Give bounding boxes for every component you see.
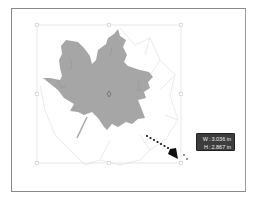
- width-row: W : 3.036 in: [200, 135, 231, 143]
- handle-middle-right: [180, 93, 183, 96]
- handle-top-right: [180, 24, 183, 27]
- width-value: 3.036 in: [211, 135, 231, 143]
- handle-bottom-right: [180, 162, 183, 165]
- height-separator: :: [209, 143, 211, 151]
- dimensions-tooltip: W : 3.036 in H : 2.867 in: [196, 133, 235, 151]
- handle-top-left: [36, 24, 39, 27]
- handle-bottom-middle: [108, 162, 111, 165]
- height-row: H : 2.867 in: [200, 143, 231, 151]
- handle-top-middle: [108, 24, 111, 27]
- height-label: H: [200, 143, 208, 151]
- width-separator: :: [209, 135, 211, 143]
- handle-bottom-left: [36, 162, 39, 165]
- handle-middle-left: [36, 93, 39, 96]
- height-value: 2.867 in: [211, 143, 231, 151]
- maple-leaf-icon[interactable]: [43, 29, 153, 138]
- canvas[interactable]: [0, 0, 255, 197]
- width-label: W: [200, 135, 208, 143]
- dotted-arrow-icon: [146, 135, 188, 160]
